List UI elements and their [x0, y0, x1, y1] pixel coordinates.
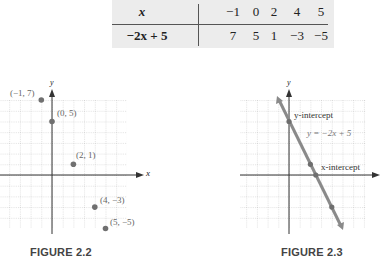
y-axis-label: y	[287, 78, 291, 87]
point-label: (5, −5)	[110, 217, 135, 227]
x-axis-label: x	[146, 168, 150, 178]
x-axis-arrow-icon	[136, 172, 144, 178]
x-axis-arrow-icon	[372, 172, 380, 178]
data-point	[92, 204, 98, 210]
y-axis-arrow-icon	[286, 89, 292, 97]
point-label: (4, −3)	[100, 195, 125, 205]
point-label: (2, 1)	[76, 150, 96, 160]
x-intercept-point	[313, 172, 318, 177]
data-point	[39, 97, 45, 103]
figure-caption: FIGURE 2.2	[30, 246, 92, 258]
y-intercept-point	[286, 119, 291, 124]
data-point	[71, 162, 77, 168]
point-label: (0, 5)	[57, 108, 77, 118]
x-intercept-label: x-intercept	[321, 162, 360, 172]
point-label: (−1, 7)	[10, 88, 35, 98]
data-point	[329, 205, 334, 210]
data-point	[49, 119, 55, 125]
figure-caption: FIGURE 2.3	[281, 246, 343, 258]
y-axis-label: y	[50, 78, 54, 87]
grid	[0, 100, 127, 228]
data-point	[308, 162, 313, 167]
equation-label: y = −2x + 5	[307, 128, 351, 138]
y-intercept-label: y-intercept	[294, 110, 333, 120]
y-axis-arrow-icon	[49, 89, 55, 97]
data-point	[103, 226, 109, 232]
